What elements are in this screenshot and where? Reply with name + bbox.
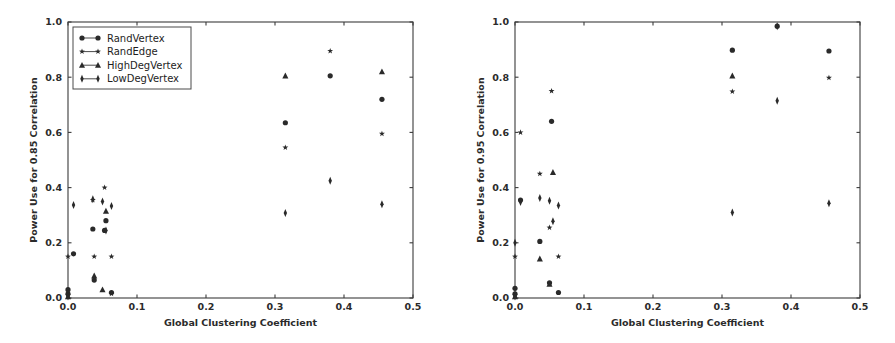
scatter-plot-left: 0.00.10.20.30.40.50.00.20.40.60.81.0Glob… [0,0,447,343]
x-tick-label: 0.2 [645,301,662,312]
marker-triangle [729,73,735,79]
legend: RandVertexRandEdgeHighDegVertexLowDegVer… [73,27,191,89]
data-point [283,120,288,125]
marker-triangle [537,256,543,262]
data-point [328,73,333,78]
data-point [826,75,832,81]
marker-circle [103,218,108,223]
y-axis-label: Power Use for 0.95 Correlation [475,77,486,243]
x-tick-label: 0.1 [576,301,593,312]
marker-star [109,254,115,260]
data-point [548,197,551,205]
y-tick-label: 0.8 [492,72,509,83]
y-tick-label: 0.8 [45,72,62,83]
data-point [95,35,100,40]
data-point [827,199,830,207]
data-point [730,48,735,53]
data-point [329,177,332,185]
data-point [65,287,70,292]
x-axis-label: Global Clustering Coefficient [164,317,317,328]
data-point [513,239,516,247]
marker-circle [79,35,84,40]
marker-star [91,254,97,260]
y-tick-label: 0.0 [45,292,62,303]
series-lowdegvertex [513,22,830,300]
data-point [72,201,75,209]
data-point [327,48,333,54]
marker-thin-diamond [284,209,287,217]
x-tick-label: 0.0 [60,301,77,312]
x-tick-label: 0.4 [336,301,353,312]
chart-panel-left: 0.00.10.20.30.40.50.00.20.40.60.81.0Glob… [0,0,447,343]
marker-star [327,48,333,54]
data-point [99,286,105,292]
data-point [549,119,554,124]
data-point [79,35,84,40]
marker-thin-diamond [776,22,779,30]
marker-star [518,129,524,135]
marker-thin-diamond [72,201,75,209]
data-point [71,251,76,256]
marker-thin-diamond [101,197,104,205]
marker-star [282,144,288,150]
legend-label-lowdegvertex: LowDegVertex [107,73,179,84]
x-tick-label: 0.5 [405,301,422,312]
data-point [91,273,97,279]
legend-label-randedge: RandEdge [107,46,158,57]
marker-triangle [103,208,109,214]
data-point [556,254,562,260]
marker-circle [328,73,333,78]
plot-frame [515,22,860,298]
y-tick-label: 0.4 [492,182,509,193]
marker-star [549,88,555,94]
x-tick-label: 0.5 [852,301,869,312]
data-point [101,197,104,205]
y-tick-label: 0.4 [45,182,62,193]
data-point [282,73,288,79]
marker-thin-diamond [551,217,554,225]
marker-thin-diamond [827,199,830,207]
marker-star [537,171,543,177]
marker-star [826,75,832,81]
x-tick-label: 0.3 [714,301,731,312]
data-point [91,254,97,260]
marker-triangle [91,273,97,279]
marker-triangle [379,68,385,74]
series-randvertex [512,24,831,297]
marker-circle [95,35,100,40]
marker-star [547,225,553,231]
data-point [109,254,115,260]
marker-thin-diamond [329,177,332,185]
data-point [537,256,543,262]
marker-circle [379,97,384,102]
marker-circle [826,48,831,53]
y-tick-label: 0.6 [45,127,62,138]
series-randedge [512,75,832,298]
data-point [103,208,109,214]
marker-thin-diamond [513,239,516,247]
data-point [537,171,543,177]
marker-thin-diamond [538,194,541,202]
marker-circle [90,226,95,231]
marker-star [729,88,735,94]
data-point [90,226,95,231]
data-point [518,129,524,135]
data-point [729,73,735,79]
x-tick-label: 0.4 [783,301,800,312]
x-tick-label: 0.0 [507,301,524,312]
data-point [556,290,561,295]
y-tick-label: 1.0 [45,16,62,27]
y-axis-label: Power Use for 0.85 Correlation [28,77,39,243]
series-highdegvertex [65,68,385,299]
data-point [282,144,288,150]
data-point [549,88,555,94]
x-tick-label: 0.2 [198,301,215,312]
x-tick-label: 0.1 [129,301,146,312]
data-point [550,169,556,175]
data-point [826,48,831,53]
marker-triangle [99,286,105,292]
data-point [104,226,107,234]
marker-thin-diamond [557,202,560,210]
marker-circle [283,120,288,125]
marker-thin-diamond [548,197,551,205]
